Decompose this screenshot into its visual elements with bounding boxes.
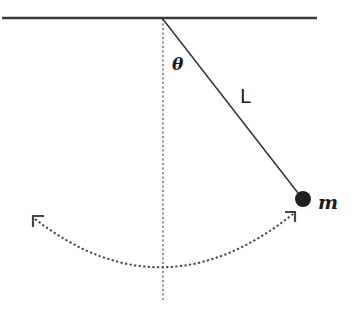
pendulum-diagram: θ L m [0, 0, 364, 319]
swing-arc [35, 214, 293, 267]
mass-label: m [318, 191, 338, 213]
pendulum-bob [295, 191, 311, 207]
pendulum-string [162, 18, 298, 193]
length-label: L [240, 85, 251, 107]
angle-label: θ [172, 54, 184, 74]
arrowhead-right-icon [285, 212, 295, 222]
